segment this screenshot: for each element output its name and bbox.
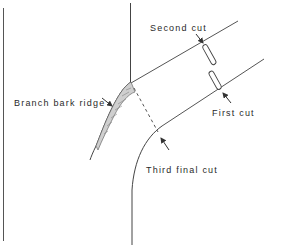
second-cut-slot bbox=[202, 44, 217, 66]
third-cut-line bbox=[134, 88, 158, 132]
first-cut-arrow-icon bbox=[223, 93, 231, 103]
first-cut-slot bbox=[208, 70, 222, 90]
first-cut-label: First cut bbox=[212, 108, 255, 119]
third-cut-arrow-icon bbox=[161, 138, 169, 150]
second-cut-arrow-icon bbox=[196, 34, 203, 43]
second-cut-label: Second cut bbox=[150, 23, 207, 34]
third-cut-label: Third final cut bbox=[146, 165, 218, 176]
branch-bark-ridge-label: Branch bark ridge bbox=[14, 98, 105, 109]
trunk-right-edge-lower bbox=[132, 126, 162, 245]
branch-bark-ridge-fill bbox=[96, 82, 135, 150]
pruning-diagram bbox=[0, 0, 292, 249]
